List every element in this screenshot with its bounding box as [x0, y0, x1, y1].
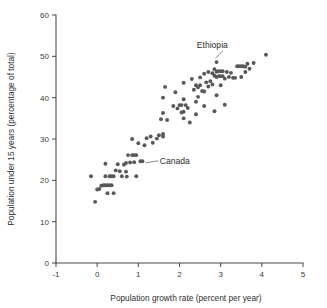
- data-point: [204, 80, 208, 84]
- x-tick-label: 3: [218, 270, 223, 279]
- data-point: [136, 141, 140, 145]
- data-point: [196, 95, 200, 99]
- data-point: [145, 136, 149, 140]
- y-axis-ticks: 0102030405060: [40, 11, 56, 268]
- data-point: [125, 175, 129, 179]
- x-tick-label: 4: [260, 270, 265, 279]
- data-point: [202, 90, 206, 94]
- x-tick-label: 0: [95, 270, 100, 279]
- data-point: [159, 117, 163, 121]
- data-point: [198, 75, 202, 79]
- data-point: [227, 75, 231, 79]
- data-points: [89, 53, 268, 204]
- data-point: [221, 69, 225, 73]
- data-point: [180, 103, 184, 107]
- data-point: [143, 143, 147, 147]
- annotation-leader-line: [145, 161, 158, 163]
- data-point: [198, 83, 202, 87]
- data-point: [106, 191, 110, 195]
- annotation-label-ethiopia: Ethiopia: [197, 40, 228, 50]
- data-point: [252, 61, 256, 65]
- data-point: [120, 174, 124, 178]
- data-point: [245, 62, 249, 66]
- data-point: [151, 141, 155, 145]
- data-point: [264, 53, 268, 57]
- data-point: [210, 82, 214, 86]
- data-point: [134, 153, 138, 157]
- data-point: [165, 118, 169, 122]
- data-point: [124, 170, 128, 174]
- data-point: [134, 174, 138, 178]
- data-point: [194, 112, 198, 116]
- x-axis-ticks: -1012345: [52, 263, 305, 279]
- data-point: [132, 160, 136, 164]
- x-tick-label: 1: [136, 270, 141, 279]
- data-point: [233, 76, 237, 80]
- data-point: [157, 133, 161, 137]
- chart-canvas: 0102030405060 -1012345 EthiopiaCanada Po…: [0, 0, 327, 308]
- data-point: [110, 183, 114, 187]
- data-point: [206, 70, 210, 74]
- data-point: [219, 83, 223, 87]
- data-point: [202, 104, 206, 108]
- data-point: [126, 153, 130, 157]
- x-tick-label: 5: [301, 270, 306, 279]
- data-point: [124, 161, 128, 165]
- y-tick-label: 20: [40, 176, 49, 185]
- annotation-label-canada: Canada: [160, 156, 190, 166]
- data-point: [175, 106, 179, 110]
- data-point: [243, 70, 247, 74]
- data-point: [112, 191, 116, 195]
- data-point: [118, 169, 122, 173]
- x-tick-label: -1: [52, 270, 60, 279]
- y-tick-label: 50: [40, 52, 49, 61]
- data-point: [161, 111, 165, 115]
- data-point: [182, 97, 186, 101]
- data-point: [223, 103, 227, 107]
- data-point: [202, 72, 206, 76]
- data-point: [192, 88, 196, 92]
- axes: [56, 15, 303, 263]
- y-tick-label: 60: [40, 11, 49, 20]
- scatter-chart: 0102030405060 -1012345 EthiopiaCanada Po…: [0, 0, 327, 308]
- data-point: [186, 106, 190, 110]
- data-point: [149, 135, 153, 139]
- data-point: [173, 90, 177, 94]
- data-point: [190, 77, 194, 81]
- data-point: [89, 174, 93, 178]
- data-point: [182, 110, 186, 114]
- data-point: [229, 71, 233, 75]
- data-point: [128, 161, 132, 165]
- y-axis-title: Population under 15 years (percentage of…: [6, 52, 16, 226]
- data-point: [223, 77, 227, 81]
- x-tick-label: 2: [177, 270, 182, 279]
- data-point: [239, 75, 243, 79]
- data-point: [182, 116, 186, 120]
- y-tick-label: 30: [40, 135, 49, 144]
- data-point: [208, 79, 212, 83]
- data-point: [163, 85, 167, 89]
- data-point: [206, 85, 210, 89]
- data-point: [215, 60, 219, 64]
- y-tick-label: 10: [40, 218, 49, 227]
- data-point: [114, 168, 118, 172]
- data-point: [194, 100, 198, 104]
- data-point: [225, 70, 229, 74]
- data-point: [182, 81, 186, 85]
- data-point: [93, 200, 97, 204]
- data-point: [161, 135, 165, 139]
- annotation-leader-line: [216, 51, 223, 58]
- data-point: [97, 187, 101, 191]
- data-point: [213, 109, 217, 113]
- data-point: [171, 104, 175, 108]
- data-point: [161, 96, 165, 100]
- data-point: [130, 137, 134, 141]
- data-point: [155, 137, 159, 141]
- x-axis-title: Population growth rate (percent per year…: [110, 293, 262, 303]
- y-tick-label: 0: [45, 259, 50, 268]
- data-point: [116, 162, 120, 166]
- data-point: [188, 121, 192, 125]
- annotations: EthiopiaCanada: [145, 40, 228, 165]
- data-point: [248, 67, 252, 71]
- data-point: [103, 162, 107, 166]
